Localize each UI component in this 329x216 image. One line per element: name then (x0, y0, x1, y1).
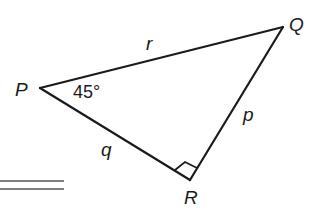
side-r (40, 27, 283, 88)
right-angle-marker (175, 162, 197, 170)
side-label-q: q (101, 139, 112, 160)
side-p (190, 27, 283, 180)
vertex-label-r: R (184, 187, 198, 208)
vertex-label-p: P (15, 79, 28, 100)
double-rule (0, 181, 64, 189)
triangle-diagram: P Q R r p q 45° (0, 0, 329, 216)
side-q (40, 88, 190, 180)
side-label-r: r (146, 33, 153, 54)
angle-label-p: 45° (73, 82, 100, 102)
side-label-p: p (242, 104, 254, 125)
vertex-label-q: Q (289, 14, 304, 35)
